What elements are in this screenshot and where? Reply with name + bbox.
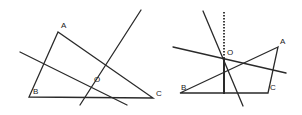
left-bisector-line-2 xyxy=(80,10,141,105)
left-label-o: O xyxy=(94,75,100,84)
right-label-c: C xyxy=(270,83,276,92)
right-triangle-figure: A B C O xyxy=(173,11,286,106)
left-label-c: C xyxy=(156,89,162,98)
left-triangle-figure: A B C O xyxy=(20,10,162,105)
left-label-b: B xyxy=(33,87,38,96)
right-label-a: A xyxy=(280,37,286,46)
right-label-b: B xyxy=(181,83,186,92)
right-label-o: O xyxy=(227,48,233,57)
left-label-a: A xyxy=(61,21,67,30)
geometry-diagram: A B C O A B C O xyxy=(0,0,302,115)
